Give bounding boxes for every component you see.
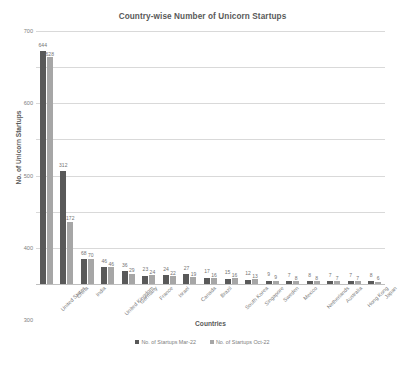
bar[interactable]: 312 <box>60 171 66 284</box>
bar[interactable]: 22 <box>170 276 176 284</box>
bar-value-label: 22 <box>170 271 176 276</box>
bar-value-label: 9 <box>274 275 277 280</box>
bar[interactable]: 24 <box>149 275 155 284</box>
bar-group: 312172 <box>57 31 78 284</box>
legend-label: No. of Startups Mar-22 <box>141 339 196 345</box>
bar-fill <box>163 275 169 284</box>
bar-value-label: 7 <box>288 273 291 278</box>
bar-group: 2422 <box>159 31 180 284</box>
legend-item[interactable]: No. of Startups Oct-22 <box>210 339 270 345</box>
x-axis-tick-label: Brazil <box>218 285 232 299</box>
bar-fill <box>122 271 128 284</box>
bar-fill <box>149 275 155 284</box>
bar-fill <box>47 57 53 284</box>
bar-fill <box>101 267 107 284</box>
y-axis-title: No. of Unicorn Startups <box>15 68 22 228</box>
bar-fill <box>67 222 73 284</box>
x-axis-title: Countries <box>36 320 385 327</box>
bar[interactable]: 19 <box>190 277 196 284</box>
bar-value-label: 17 <box>204 269 210 274</box>
bar-value-label: 8 <box>295 276 298 281</box>
bar[interactable]: 172 <box>67 222 73 284</box>
bar-group: 644628 <box>36 31 57 284</box>
bar-value-label: 172 <box>66 216 74 221</box>
chart-legend: No. of Startups Mar-22No. of Startups Oc… <box>0 339 405 345</box>
x-axis-tick-label: Canada <box>200 285 218 303</box>
bar-group: 78 <box>282 31 303 284</box>
bar[interactable]: 27 <box>183 274 189 284</box>
y-axis-tick-label: 500 <box>24 173 33 179</box>
y-axis-tick-label: 700 <box>24 28 33 34</box>
x-axis-tick-label: Israel <box>177 285 191 299</box>
bar-value-label: 8 <box>370 273 373 278</box>
bar-group: 2324 <box>139 31 160 284</box>
bar-group: 77 <box>323 31 344 284</box>
bar[interactable]: 70 <box>88 259 94 284</box>
bar[interactable]: 36 <box>122 271 128 284</box>
bar-group: 4646 <box>98 31 119 284</box>
bar-group: 3629 <box>118 31 139 284</box>
bar-fill <box>108 267 114 284</box>
bar[interactable]: 29 <box>129 274 135 284</box>
bar-group: 99 <box>262 31 283 284</box>
bar-fill <box>81 259 87 284</box>
bar-value-label: 46 <box>102 259 108 264</box>
bar-group: 1213 <box>241 31 262 284</box>
bar[interactable]: 46 <box>101 267 107 284</box>
chart-title: Country-wise Number of Unicorn Startups <box>0 12 405 21</box>
bar-value-label: 16 <box>232 273 238 278</box>
bar-fill <box>88 259 94 284</box>
bar-fill <box>60 171 66 284</box>
bar[interactable]: 644 <box>40 51 46 284</box>
bar-value-label: 27 <box>184 266 190 271</box>
bar-value-label: 19 <box>191 272 197 277</box>
bar-value-label: 24 <box>150 270 156 275</box>
legend-label: No. of Startups Oct-22 <box>216 339 270 345</box>
x-axis-tick-label: France <box>158 285 174 301</box>
plot-area: 0100200300400500600700 64462831217268704… <box>36 31 385 284</box>
bar-group: 88 <box>303 31 324 284</box>
legend-item[interactable]: No. of Startups Mar-22 <box>135 339 196 345</box>
bar-value-label: 9 <box>267 272 270 277</box>
x-axis-tick-label: India <box>95 285 108 298</box>
bar[interactable]: 46 <box>108 267 114 284</box>
x-axis-tick-labels: United StatesChinaIndiaUnited KingdomGer… <box>36 285 385 320</box>
y-axis-tick-label: 400 <box>24 245 33 251</box>
bar-fill <box>170 276 176 284</box>
bar-fill <box>142 276 148 284</box>
bar-value-label: 7 <box>336 276 339 281</box>
x-axis-tick-label: China <box>75 285 89 299</box>
bar-value-label: 7 <box>349 273 352 278</box>
bar-value-label: 68 <box>81 251 87 256</box>
bar-value-label: 23 <box>143 267 149 272</box>
bar[interactable]: 628 <box>47 57 53 284</box>
bar-chart: Country-wise Number of Unicorn Startups … <box>0 0 405 365</box>
bar-value-label: 16 <box>211 273 217 278</box>
bar[interactable]: 24 <box>163 275 169 284</box>
bar-fill <box>40 51 46 284</box>
bar-value-label: 312 <box>59 163 67 168</box>
bar-value-label: 8 <box>308 273 311 278</box>
bar-value-label: 36 <box>122 263 128 268</box>
bar-value-label: 644 <box>39 43 47 48</box>
bar-group: 1516 <box>221 31 242 284</box>
bar-group: 6870 <box>77 31 98 284</box>
bar-value-label: 6 <box>377 276 380 281</box>
bar-group: 86 <box>364 31 385 284</box>
bar[interactable]: 68 <box>81 259 87 284</box>
bar[interactable]: 23 <box>142 276 148 284</box>
bar-value-label: 12 <box>245 271 251 276</box>
bars-layer: 6446283121726870464636292324242227191716… <box>36 31 385 284</box>
bar-value-label: 8 <box>315 276 318 281</box>
legend-swatch <box>210 340 214 344</box>
y-axis-tick-label: 600 <box>24 100 33 106</box>
bar-value-label: 70 <box>88 253 94 258</box>
bar-group: 77 <box>344 31 365 284</box>
x-axis-tick-label: South Korea <box>244 285 269 310</box>
bar-group: 2719 <box>180 31 201 284</box>
bar-fill <box>190 277 196 284</box>
bar-value-label: 24 <box>163 267 169 272</box>
bar-group: 1716 <box>200 31 221 284</box>
bar-fill <box>129 274 135 284</box>
x-axis-tick-label: Mexico <box>302 285 318 301</box>
